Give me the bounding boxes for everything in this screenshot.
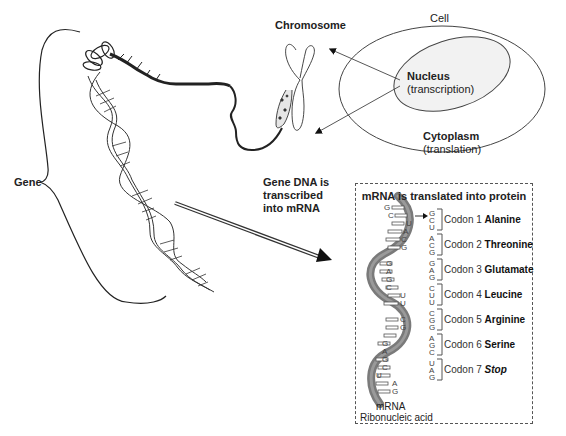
amino-acid: Serine [485, 339, 516, 350]
amino-acid: Leucine [485, 289, 523, 300]
ribonucleic-acid-caption: Ribonucleic acid [360, 411, 433, 424]
amino-acid: Arginine [485, 314, 526, 325]
transcription-label-line3: into mRNA [263, 202, 320, 215]
cell-label: Cell [430, 12, 449, 25]
codon-number: Codon 2 [444, 239, 482, 250]
cytoplasm-sublabel: (translation) [423, 143, 481, 156]
nucleus-sublabel: (transcription) [407, 83, 474, 96]
nucleotide: G [429, 273, 435, 282]
condensed-dna-icon [82, 40, 282, 150]
arrow-to-chromosome-icon [332, 50, 400, 80]
nucleotide: C [429, 348, 435, 357]
chromosome-label: Chromosome [275, 19, 346, 32]
nucleotide: U [429, 223, 435, 232]
codon-number: Codon 3 [444, 264, 482, 275]
helix-base: C [386, 283, 392, 292]
codon-row: Codon 2 Threonine [444, 239, 533, 250]
codon-row: Codon 6 Serine [444, 339, 515, 350]
amino-acid-stop: Stop [485, 364, 507, 375]
nucleotide: U [429, 298, 435, 307]
codon-number: Codon 6 [444, 339, 482, 350]
gene-brace [39, 29, 166, 303]
transcription-label-line1: Gene DNA is [263, 176, 329, 189]
codon-row: Codon 4 Leucine [444, 289, 522, 300]
codon-number: Codon 1 [444, 214, 482, 225]
nucleus-shape [384, 23, 519, 125]
helix-base: C [388, 211, 394, 220]
amino-acid: Glutamate [485, 264, 534, 275]
transcription-label-line2: transcribed [263, 189, 323, 202]
codon-number: Codon 5 [444, 314, 482, 325]
codon-row: Codon 3 Glutamate [444, 264, 534, 275]
helix-base: U [376, 371, 382, 380]
translation-panel-title: mRNA is translated into protein [356, 190, 532, 202]
nucleotide: G [429, 248, 435, 257]
codon-number: Codon 7 [444, 364, 482, 375]
amino-acid: Alanine [485, 214, 521, 225]
helix-base: G [400, 323, 406, 332]
helix-base: G [392, 387, 398, 396]
nucleus-label: Nucleus [407, 70, 450, 83]
amino-acid: Threonine [485, 239, 533, 250]
codon-row: Codon 1 Alanine [444, 214, 521, 225]
codon-row: Codon 5 Arginine [444, 314, 525, 325]
helix-base: U [400, 299, 406, 308]
arrow-to-cytoplasm-icon [318, 86, 400, 132]
gene-label: Gene [14, 176, 42, 189]
helix-base: C [382, 363, 388, 372]
cytoplasm-label: Cytoplasm [423, 130, 479, 143]
codon-number: Codon 4 [444, 289, 482, 300]
nucleotide: G [429, 323, 435, 332]
dna-double-helix-icon [88, 72, 214, 292]
codon-row: Codon 7 Stop [444, 364, 507, 375]
helix-base: G [401, 243, 407, 252]
chromosome-icon [276, 44, 314, 130]
nucleotide: G [429, 373, 435, 382]
